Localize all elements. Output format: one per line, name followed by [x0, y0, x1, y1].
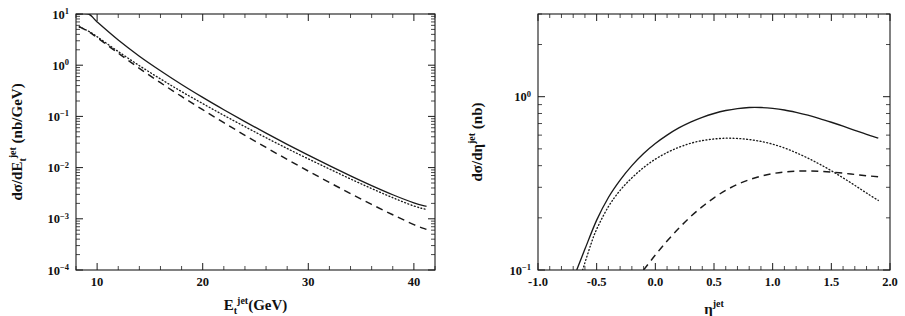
curve-dashed	[79, 27, 426, 230]
y-tick-label: 10−4	[47, 262, 69, 278]
y-tick-label: 10−3	[47, 211, 69, 227]
left-plot-svg: 1020304010−410−310−210−1100101Etjet(GeV)…	[0, 0, 452, 316]
x-tick-label: -1.0	[528, 275, 548, 289]
y-tick-label: 10−1	[47, 108, 69, 124]
x-axis-title: Etjet(GeV)	[224, 295, 288, 316]
x-tick-label: 30	[302, 275, 315, 289]
y-tick-label: 100	[52, 57, 69, 73]
x-axis-title: ηjet	[704, 298, 724, 316]
plot-frame	[538, 14, 890, 270]
curve-dashed	[644, 171, 879, 270]
right-plot-svg: -1.0-0.50.00.51.01.52.010−1100ηjetdσ/dηj…	[452, 0, 905, 316]
y-axis-title: dσ/dηjet (nb)	[466, 102, 486, 181]
x-tick-label: 0.0	[648, 275, 664, 289]
curve-solid	[577, 107, 879, 270]
y-tick-label: 101	[52, 6, 69, 22]
y-axis-title: dσ/dEtjet (nb/GeV)	[7, 83, 28, 200]
curve-solid	[76, 13, 427, 206]
x-tick-label: 0.5	[706, 275, 722, 289]
chart-panel-right: -1.0-0.50.00.51.01.52.010−1100ηjetdσ/dηj…	[452, 0, 905, 316]
x-tick-label: 40	[408, 275, 421, 289]
y-tick-label: 100	[514, 89, 531, 105]
figure-root: 1020304010−410−310−210−1100101Etjet(GeV)…	[0, 0, 905, 316]
curve-dotted	[583, 138, 879, 270]
x-tick-label: 1.0	[765, 275, 781, 289]
x-tick-label: 1.5	[824, 275, 840, 289]
y-tick-label: 10−2	[47, 160, 69, 176]
x-tick-label: 20	[196, 275, 209, 289]
x-tick-label: 2.0	[882, 275, 898, 289]
curve-dotted	[79, 27, 426, 210]
x-tick-label: 10	[91, 275, 104, 289]
chart-panel-left: 1020304010−410−310−210−1100101Etjet(GeV)…	[0, 0, 452, 316]
x-tick-label: -0.5	[587, 275, 607, 289]
